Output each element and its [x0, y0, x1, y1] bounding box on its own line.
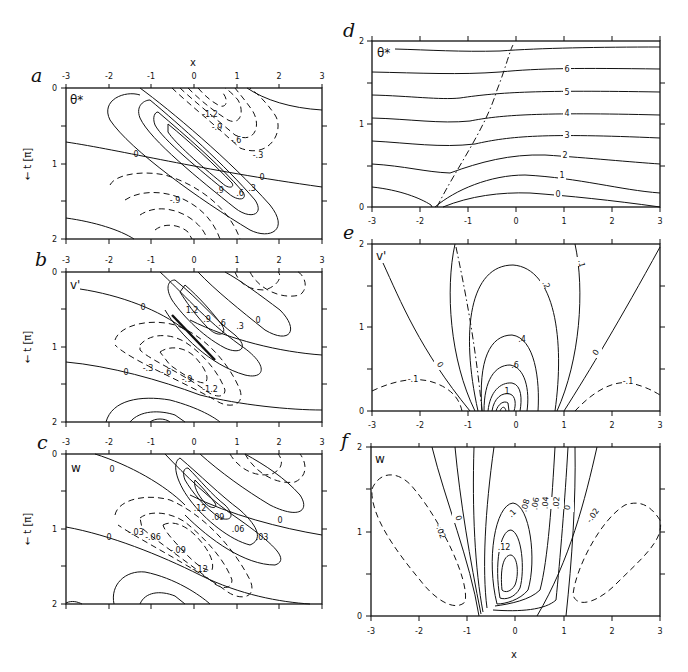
panel-letter-f: f: [339, 429, 351, 451]
plot-frame-c: [66, 454, 322, 604]
x-ticks-d: -3-2-10123: [368, 36, 663, 226]
svg-text:-3: -3: [62, 256, 70, 265]
panel-letter-b: b: [35, 248, 47, 270]
svg-text:3: 3: [319, 438, 324, 447]
svg-text:0: 0: [359, 203, 364, 212]
svg-text:2: 2: [609, 217, 614, 226]
svg-text:-.6: -.6: [161, 368, 172, 377]
svg-text:1: 1: [234, 256, 239, 265]
t-axis-title-c: ← t [π]: [22, 513, 33, 546]
svg-text:-3: -3: [367, 627, 375, 636]
svg-text:.06: .06: [232, 525, 245, 534]
plot-frame-f: [371, 447, 660, 616]
svg-text:2: 2: [276, 438, 281, 447]
svg-text:-1: -1: [147, 438, 155, 447]
svg-text:0: 0: [52, 450, 57, 459]
svg-text:.12: .12: [498, 543, 511, 552]
svg-text:0: 0: [52, 84, 57, 93]
svg-text:0: 0: [191, 72, 196, 81]
svg-text:2: 2: [562, 151, 567, 160]
svg-text:-.1: -.1: [408, 375, 419, 384]
x-ticks-c: -3-2-10123: [62, 422, 325, 609]
svg-text:-3: -3: [62, 72, 70, 81]
svg-text:1: 1: [561, 217, 566, 226]
svg-text:-.6: -.6: [231, 136, 242, 145]
plot-frame-a: [66, 88, 322, 239]
svg-text:-3: -3: [368, 421, 376, 430]
contours-e: .2 .1 .4 .6 1 0 0 -.1 -.1: [372, 244, 660, 411]
svg-text:-1: -1: [463, 627, 471, 636]
svg-text:.9: .9: [216, 186, 224, 195]
y-ticks-d: 012: [359, 37, 665, 212]
svg-text:0: 0: [357, 612, 362, 621]
variable-label-f: w: [375, 452, 385, 466]
svg-text:2: 2: [359, 37, 364, 46]
svg-text:1: 1: [234, 438, 239, 447]
svg-text:.02: .02: [551, 496, 561, 509]
svg-text:1: 1: [359, 120, 364, 129]
variable-label-d: θ*: [377, 46, 390, 60]
svg-text:2: 2: [276, 72, 281, 81]
svg-text:1: 1: [52, 160, 57, 169]
plot-frame-e: [372, 244, 660, 411]
svg-text:3: 3: [657, 217, 662, 226]
svg-text:0: 0: [513, 421, 518, 430]
variable-label-e: v': [376, 249, 386, 263]
panel-b: b -3-2-10123 012 ← t [π] v': [22, 239, 327, 427]
svg-text:.6: .6: [218, 319, 226, 328]
svg-text:.6: .6: [511, 361, 519, 370]
svg-text:1: 1: [561, 627, 566, 636]
t-axis-title-a: ← t [π]: [22, 148, 33, 181]
svg-text:0: 0: [106, 533, 111, 542]
svg-text:-2: -2: [416, 217, 424, 226]
svg-text:-1: -1: [464, 217, 472, 226]
svg-text:6: 6: [564, 65, 569, 74]
svg-text:-.3: -.3: [253, 151, 264, 160]
svg-text:-1: -1: [464, 421, 472, 430]
contours-b: 0 1.2 .9 .6 .3 0 0 -.3 -.6 -.9 -1.2: [66, 272, 322, 422]
contours-c: 0 .12 .09 .06 .03 0 0 -.03 -.06 -.09 -.1…: [66, 454, 322, 604]
svg-text:.03: .03: [256, 533, 269, 542]
svg-text:.6: .6: [236, 189, 244, 198]
svg-text:2: 2: [52, 235, 57, 244]
svg-text:.4: .4: [518, 335, 526, 344]
svg-text:-1.2: -1.2: [202, 385, 218, 394]
svg-text:.3: .3: [236, 322, 244, 331]
svg-text:1: 1: [52, 525, 57, 534]
svg-text:0: 0: [140, 303, 145, 312]
panel-c: c -3-2-10123 012 ← t [π] w: [22, 422, 327, 609]
svg-text:.1: .1: [506, 507, 518, 519]
svg-text:-3: -3: [368, 217, 376, 226]
svg-text:-2: -2: [416, 421, 424, 430]
svg-text:0: 0: [133, 150, 138, 159]
svg-text:0: 0: [359, 407, 364, 416]
svg-text:2: 2: [357, 443, 362, 452]
svg-text:-.09: -.09: [170, 546, 186, 555]
svg-text:2: 2: [609, 421, 614, 430]
svg-text:-.3: -.3: [143, 364, 154, 373]
panel-a: a x -3-2-10123 012 ← t [π] θ*: [22, 57, 327, 244]
svg-text:0: 0: [109, 465, 114, 474]
svg-text:4: 4: [564, 109, 569, 118]
svg-text:0: 0: [52, 268, 57, 277]
variable-label-a: θ*: [70, 93, 83, 107]
panel-d: d -3-2-10123 012 θ* 6 5 4 3: [343, 19, 665, 226]
svg-text:0: 0: [123, 368, 128, 377]
svg-text:1: 1: [52, 343, 57, 352]
svg-text:-.9: -.9: [182, 375, 193, 384]
svg-text:1: 1: [559, 171, 564, 180]
x-ticks-b: -3-2-10123: [62, 239, 325, 272]
svg-text:.1: .1: [576, 259, 586, 268]
svg-text:-.12: -.12: [192, 565, 208, 574]
t-ticks-b: 012: [52, 268, 327, 427]
svg-text:3: 3: [564, 131, 569, 140]
t-ticks-a: 012: [52, 84, 327, 244]
t-axis-title-b: ← t [π]: [22, 331, 33, 364]
svg-text:2: 2: [52, 418, 57, 427]
variable-label-b: v': [70, 278, 80, 292]
panel-letter-c: c: [37, 431, 48, 453]
panel-f: f -3-2-10123 012 x w: [339, 429, 665, 660]
svg-text:-.06: -.06: [145, 533, 161, 542]
x-axis-title-bottom: x: [511, 649, 517, 660]
svg-text:2: 2: [359, 240, 364, 249]
